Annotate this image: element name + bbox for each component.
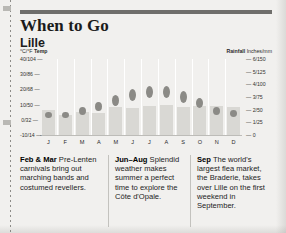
rain-axis-caption: Rainfall Inches/mm (226, 48, 272, 54)
rain-tick-label: — 2/50 (246, 107, 263, 113)
note-month: Jun–Aug (115, 155, 148, 164)
rain-tick-label: — 1/25 (246, 119, 263, 125)
month-separator (208, 59, 209, 135)
rain-axis-word: Rainfall (226, 48, 245, 54)
month-label: N (210, 139, 223, 145)
note-month: Sep (197, 155, 211, 164)
note-item: Jun–Aug Splendid weather makes summer a … (108, 155, 190, 227)
page-title: When to Go (20, 16, 109, 36)
rainfall-bar (109, 107, 122, 135)
month-label: S (177, 139, 190, 145)
temperature-dot (146, 86, 153, 98)
month-label: F (59, 139, 72, 145)
climate-chart: °C/°F Temp Rainfall Inches/mm 40/104 —30… (20, 48, 272, 148)
temp-axis-unit: °C/°F (20, 48, 33, 54)
temperature-dot (95, 102, 102, 111)
rainfall-bar (76, 112, 89, 135)
month-separator (124, 59, 125, 135)
month-label: M (109, 139, 122, 145)
rain-tick-label: — 5/125 (246, 69, 266, 75)
temperature-dot (79, 107, 86, 115)
month-separator (141, 59, 142, 135)
temp-tick-label: -10/14 — (20, 132, 38, 138)
chart-plot-area (40, 59, 242, 135)
temp-axis-word: Temp (34, 48, 47, 54)
rainfall-bar (177, 107, 190, 135)
month-label: J (126, 139, 139, 145)
month-label: A (160, 139, 173, 145)
month-separator (107, 59, 108, 135)
temperature-dot (213, 107, 220, 115)
month-separator (175, 59, 176, 135)
month-separator (225, 59, 226, 135)
note-text: The world's largest flea market, the Bra… (197, 155, 265, 210)
rainfall-bar (193, 106, 206, 135)
rain-tick-label: — 4/100 (246, 81, 266, 87)
rain-tick-label: — 6/150 (246, 56, 266, 62)
rainfall-bar (126, 108, 139, 135)
temp-tick-label: 30/86 — (20, 71, 38, 77)
seasonal-notes: Feb & Mar Pre-Lenten carnivals bring out… (20, 155, 276, 227)
temperature-dot (129, 89, 136, 101)
note-item: Sep The world's largest flea market, the… (190, 155, 276, 227)
temp-tick-label: 0/32 — (20, 117, 38, 123)
rain-tick-label: — 0 (246, 132, 256, 138)
guidebook-page: When to Go Lille °C/°F Temp Rainfall Inc… (0, 0, 286, 233)
header-rule (20, 10, 272, 14)
month-label: A (92, 139, 105, 145)
month-separator (91, 59, 92, 135)
rain-tick-label: — 3/75 (246, 94, 263, 100)
month-label: D (227, 139, 240, 145)
temp-tick-label: 40/104 — (20, 56, 38, 62)
rainfall-bar (92, 113, 105, 135)
note-item: Feb & Mar Pre-Lenten carnivals bring out… (20, 155, 108, 227)
month-separator (57, 59, 58, 135)
month-separator (158, 59, 159, 135)
month-label: J (42, 139, 55, 145)
rainfall-bar (160, 105, 173, 135)
temp-tick-label: 20/68 — (20, 86, 38, 92)
spine-mark-middle (3, 120, 11, 125)
rain-axis-unit: Inches/mm (247, 48, 272, 54)
month-label: O (193, 139, 206, 145)
spine-mark-top (3, 6, 11, 11)
note-month: Feb & Mar (20, 155, 57, 164)
month-label: M (76, 139, 89, 145)
page-bottom-shadow (0, 225, 286, 233)
rainfall-bar (143, 106, 156, 135)
temperature-dot (163, 86, 170, 98)
month-label: J (143, 139, 156, 145)
temperature-dot (112, 95, 119, 106)
temperature-dot (180, 91, 187, 103)
page-edge-shadow (276, 0, 286, 233)
temp-axis-caption: °C/°F Temp (20, 48, 47, 54)
temp-tick-label: 10/50 — (20, 102, 38, 108)
chart-baseline (40, 135, 242, 136)
month-separator (74, 59, 75, 135)
page-spine-dotted-line (10, 0, 11, 233)
month-separator (192, 59, 193, 135)
